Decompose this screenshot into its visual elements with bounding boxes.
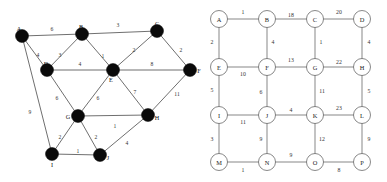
node-I[interactable] [46,148,59,161]
node-label-A: A [17,25,22,32]
edge-weight-C-G: 1 [320,39,323,45]
edge-weight-G-I: 2 [59,134,62,140]
edge-weight-A-I: 9 [29,109,32,115]
node-H[interactable] [142,109,155,122]
edge-weight-K-O: 12 [319,136,325,142]
edge-weight-G-H: 1 [114,123,117,129]
edge-weight-B-E: 1 [102,53,105,59]
node-label-I: I [218,112,220,119]
node-label-F: F [197,67,201,74]
node-label-G: G [313,64,318,71]
edge-weight-N-O: 9 [290,152,293,158]
node-G[interactable] [72,110,85,123]
edge-weight-M-N: 1 [242,167,245,173]
graph-diagram-svg: 63431224866711192214ABCDEFGHIJ 118202414… [0,0,387,182]
edge-weight-A-B: 1 [242,9,245,15]
node-label-C: C [155,20,159,27]
node-label-M: M [216,159,222,166]
node-label-O: O [313,159,318,166]
edge-weight-A-D: 4 [37,52,40,58]
node-label-E: E [109,76,113,83]
edge-weight-C-F: 2 [180,47,183,53]
edge-weight-B-C: 3 [117,22,120,28]
edge-weight-B-F: 4 [272,39,275,45]
node-label-D: D [44,60,49,67]
node-F[interactable] [184,64,197,77]
edge-weight-E-G: 6 [97,95,100,101]
node-label-I: I [51,161,53,168]
node-label-N: N [265,159,270,166]
edge-weight-G-J: 2 [95,134,98,140]
node-label-H: H [360,64,365,71]
figure-canvas: 63431224866711192214ABCDEFGHIJ 118202414… [0,0,387,182]
edge-weight-I-J: 1 [77,148,80,154]
edge-weight-E-F: 8 [151,61,154,67]
edge-weight-G-H: 22 [336,59,342,65]
node-J[interactable] [94,149,107,162]
edge-weight-B-C: 18 [288,12,294,18]
node-label-E: E [217,64,221,71]
edge-weight-J-N: 9 [260,136,263,142]
edge-weight-J-H: 4 [126,140,129,146]
edge-weight-E-I: 5 [211,87,214,93]
edge-weight-F-H: 11 [174,91,180,97]
node-label-B: B [79,23,83,30]
node-label-P: P [360,159,364,166]
node-label-G: G [66,113,71,120]
edge-weight-J-K: 4 [290,107,293,113]
edge-weight-F-J: 6 [260,89,263,95]
edge-weight-H-L: 5 [368,88,371,94]
edge-weight-F-G: 13 [288,57,294,63]
edge-weight-C-E: 2 [133,47,136,53]
node-label-B: B [265,16,269,23]
edge-weight-O-P: 8 [338,167,341,173]
edge-weight-A-B: 6 [51,26,54,32]
node-label-F: F [265,64,269,71]
edge-weight-E-F: 10 [240,71,246,77]
node-label-L: L [360,112,364,119]
edge-weight-D-E: 4 [79,61,82,67]
node-label-D: D [360,16,365,23]
node-label-K: K [313,112,318,119]
edge-weight-L-P: 9 [368,136,371,142]
edge-weight-D-H: 4 [368,39,371,45]
edge-weight-E-H: 7 [134,89,137,95]
node-label-A: A [217,16,222,23]
edge-weight-I-M: 3 [211,136,214,142]
node-label-H: H [155,114,160,121]
edge-weight-D-G: 6 [56,95,59,101]
edge-weight-B-D: 3 [59,52,62,58]
edge-weight-A-E: 2 [211,39,214,45]
node-label-C: C [313,16,317,23]
edge-weight-G-K: 11 [319,88,325,94]
edge-weight-C-D: 20 [336,9,342,15]
edge-weight-K-L: 23 [336,105,342,111]
edge-weight-I-J: 11 [240,119,246,125]
